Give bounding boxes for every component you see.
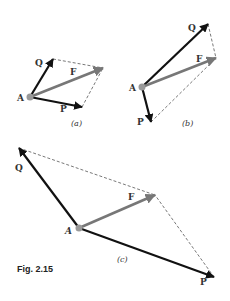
f-label: F bbox=[128, 192, 135, 202]
vector-f-arrow bbox=[79, 195, 155, 228]
panel-a: A Q F P (a) bbox=[16, 58, 103, 128]
panel-label: (a) bbox=[71, 119, 82, 128]
figure-caption: Fig. 2.15 bbox=[17, 264, 53, 274]
q-label: Q bbox=[15, 163, 23, 173]
q-label: Q bbox=[188, 23, 196, 33]
origin-point bbox=[76, 225, 83, 232]
origin-label: A bbox=[128, 83, 137, 93]
panel-b: A Q F P (b) bbox=[128, 23, 216, 128]
panel-label: (b) bbox=[182, 119, 193, 128]
origin-label: A bbox=[64, 226, 72, 236]
vector-p-arrow bbox=[30, 97, 82, 107]
vector-diagram: A Q F P (a) A Q F P (b) A Q F P (c) Fig.… bbox=[0, 0, 230, 301]
vector-q-arrow bbox=[19, 148, 79, 228]
p-label: P bbox=[137, 117, 144, 127]
vector-f-arrow bbox=[30, 68, 103, 97]
p-label: P bbox=[200, 277, 207, 287]
vector-f-arrow bbox=[142, 58, 216, 87]
origin-label: A bbox=[16, 93, 25, 103]
dashed-line bbox=[19, 148, 155, 195]
p-label: P bbox=[60, 104, 67, 114]
q-label: Q bbox=[35, 58, 43, 68]
panel-label: (c) bbox=[117, 255, 128, 264]
dashed-line bbox=[53, 59, 103, 68]
vector-p-arrow bbox=[79, 228, 214, 277]
dashed-line bbox=[208, 24, 216, 58]
f-label: F bbox=[70, 67, 77, 77]
origin-point bbox=[139, 84, 146, 91]
f-label: F bbox=[196, 54, 203, 64]
origin-point bbox=[27, 94, 34, 101]
dashed-line bbox=[155, 195, 214, 277]
